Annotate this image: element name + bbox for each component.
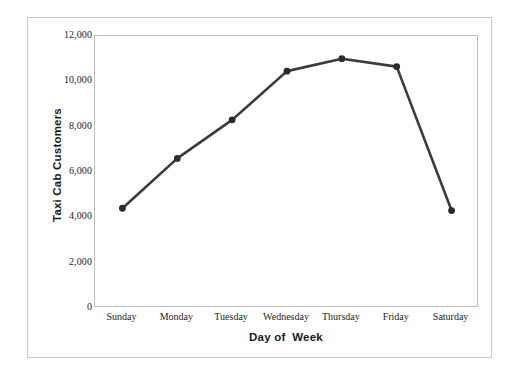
y-tick-label: 4,000: [34, 211, 92, 221]
data-markers: [119, 55, 455, 214]
y-tick-label: 6,000: [34, 166, 92, 176]
y-axis-title: Taxi Cab Customers: [51, 65, 63, 265]
x-axis-tick-labels: Sunday Monday Tuesday Wednesday Thursday…: [94, 311, 478, 327]
y-tick-label: 12,000: [34, 30, 92, 40]
x-axis-title: Day of Week: [94, 331, 478, 343]
x-tick-label: Wednesday: [263, 311, 309, 323]
x-tick-label: Tuesday: [214, 311, 248, 323]
data-point-marker: [229, 116, 236, 123]
plot-area: [94, 35, 478, 307]
data-point-marker: [393, 63, 400, 70]
y-tick-label: 0: [34, 302, 92, 312]
data-point-marker: [174, 155, 181, 162]
data-point-marker: [338, 55, 345, 62]
data-point-marker: [448, 207, 455, 214]
x-tick-label: Monday: [160, 311, 193, 323]
y-tick-label: 2,000: [34, 257, 92, 267]
x-tick-label: Friday: [383, 311, 409, 323]
line-series-svg: [95, 36, 479, 308]
data-point-marker: [119, 205, 126, 212]
y-tick-label: 8,000: [34, 121, 92, 131]
data-point-marker: [284, 68, 291, 75]
y-tick-label: 10,000: [34, 75, 92, 85]
x-tick-label: Sunday: [106, 311, 136, 323]
chart-figure: 12,000 10,000 8,000 6,000 4,000 2,000 0 …: [0, 0, 521, 380]
data-line: [122, 59, 451, 211]
x-tick-label: Thursday: [322, 311, 360, 323]
x-tick-label: Saturday: [433, 311, 469, 323]
